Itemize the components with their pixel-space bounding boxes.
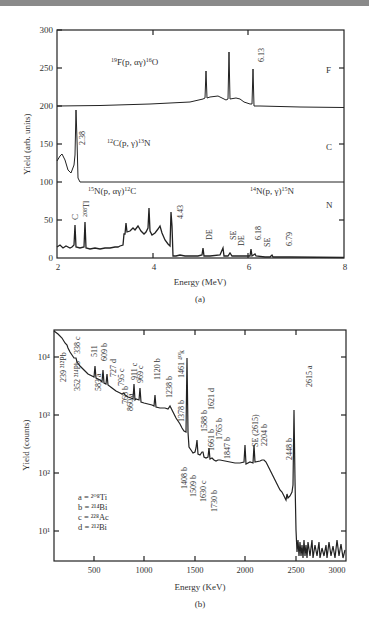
label-1461: 1461 ⁴⁰k [177,350,186,378]
peak-label-se-2: SE [263,238,272,247]
ytick-1e4: 10⁴ [38,352,50,362]
peak-label-6-18: 6.18 [254,226,263,240]
ytick-150: 150 [40,139,54,149]
peak-label-2-38: 2.38 [78,131,87,145]
label-2204: 2204 b [260,424,269,446]
xtick-1000: 1000 [136,565,153,575]
legend-d: d = ²¹²Bi [78,522,108,532]
label-1509: 1509 b [189,475,198,497]
peak-label-de-2: DE [237,235,246,246]
ytick-200: 200 [40,101,54,111]
label-511: 511 [90,345,99,357]
panel-b-caption: (b) [195,599,206,609]
trace-label-n: N [326,200,333,210]
trace-c [57,110,344,182]
figure-canvas: 300 250 200 150 100 50 0 2 4 6 8 Energy … [0,0,369,629]
label-1120: 1120 b [153,358,162,380]
xtick-2: 2 [56,262,61,272]
xtick-4: 4 [152,262,157,272]
ytick-0: 0 [49,253,54,263]
label-1765: 1765 b [215,418,224,440]
panel-a-yticks [57,30,344,258]
xtick-500: 500 [88,565,101,575]
panel-b-legend: a = ²⁰⁸Ti b = ²¹⁴Bi c = ²²⁸Ac d = ²¹²Bi [78,492,109,532]
legend-a: a = ²⁰⁸Ti [78,492,108,502]
panel-b-ylabel: Yield (counts) [21,419,31,470]
trace-label-c: C [326,142,332,152]
label-1408: 1408 b [180,467,189,489]
label-239: 239 ²¹²Pb [59,352,68,382]
ytick-300: 300 [40,25,54,35]
xtick-8: 8 [343,262,348,272]
label-1630: 1630 c [199,480,208,502]
peak-label-6-79: 6.79 [285,232,294,246]
label-1621: 1621 d [207,388,216,410]
reaction-n1: 15N(p, αγ)12C [88,186,136,196]
label-se-2615: SE (2615) [251,414,260,447]
label-609: 609 b [100,343,109,361]
ytick-250: 250 [40,63,54,73]
label-2615: 2615 a [305,365,314,387]
panel-b: 10⁴ 10³ 10² 10¹ 500 1000 1500 2000 2500 … [21,330,346,609]
peak-label-6-13: 6.13 [257,48,266,62]
peak-label-de-1: DE [205,229,214,240]
label-1730: 1730 b [210,490,219,512]
label-795: 795 c [117,368,126,386]
reaction-n2: 14N(p, γ)15N [250,186,294,196]
xtick-2000: 2000 [237,565,254,575]
label-2448: 2448 b [285,438,294,460]
peak-label-tl: 208Tl [82,200,91,217]
label-583: 583 a [94,373,103,391]
panel-a-frame [57,30,344,258]
legend-b: b = ²¹⁴Bi [78,502,108,512]
xtick-3000: 3000 [329,565,346,575]
label-1238: 1238 b [165,376,174,398]
label-352: 352 ²¹⁴Pb [73,361,82,391]
legend-c: c = ²²⁸Ac [78,512,109,522]
label-1847: 1847 b [223,437,232,459]
xtick-6: 6 [247,262,252,272]
peak-label-c: C [70,214,80,220]
ytick-1e2: 10² [38,468,50,478]
panel-a-caption: (a) [195,294,205,304]
trace-label-f: F [326,65,331,75]
reaction-c: 12C(p, γ)13N [107,138,151,148]
trace-n [57,208,344,258]
label-969: 969 c [136,365,145,383]
label-338: 338 c [73,336,82,354]
peak-label-4-43: 4.43 [176,205,185,219]
trace-f [57,52,344,108]
panel-a: 300 250 200 150 100 50 0 2 4 6 8 Energy … [22,25,348,304]
label-1588: 1588 b [200,410,209,432]
panel-b-xlabel: Energy (KeV) [174,582,225,592]
panel-a-xlabel: Energy (MeV) [174,277,227,287]
ytick-50: 50 [44,215,54,225]
xtick-1500: 1500 [187,565,204,575]
label-1378: 1378 b [177,400,186,422]
ytick-1e3: 10³ [38,410,50,420]
panel-a-ylabel: Yield (arb. units) [22,113,32,174]
reaction-f: 19F(p, αγ)16O [111,57,159,67]
ytick-100: 100 [40,177,54,187]
xtick-2500: 2500 [288,565,305,575]
ytick-1e1: 10¹ [38,526,50,536]
label-860: 860 a [126,393,135,411]
